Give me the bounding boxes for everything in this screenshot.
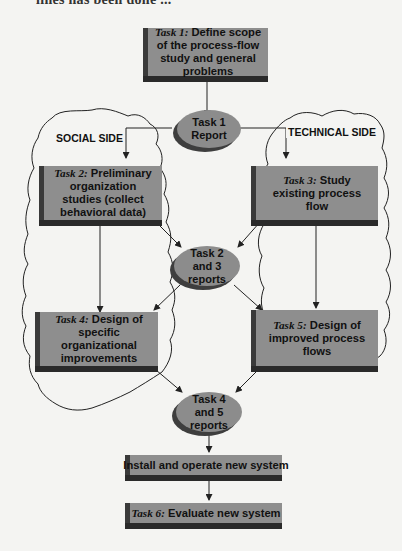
- task-4-and-5-reports-text: Task 4 and 5 reports: [181, 393, 237, 432]
- task-6-prefix: Task 6:: [131, 507, 164, 519]
- task-1-report-text: Task 1 Report: [189, 116, 229, 142]
- task-6-text: Evaluate new system: [165, 507, 281, 519]
- install-text: Install and operate new system: [123, 459, 288, 472]
- task-3-box: Task 3: Study existing process flow: [256, 166, 378, 220]
- task-1-box: Task 1: Define scope of the process-flow…: [148, 28, 268, 76]
- task-1-prefix: Task 1:: [155, 26, 188, 38]
- task-4-and-5-reports: Task 4 and 5 reports: [176, 392, 242, 432]
- task-2-box: Task 2: Preliminary organization studies…: [44, 166, 162, 220]
- task-6-box: Task 6: Evaluate new system: [130, 503, 282, 523]
- task-2-prefix: Task 2:: [54, 167, 87, 179]
- task-2-and-3-reports-text: Task 2 and 3 reports: [179, 247, 235, 286]
- task-3-prefix: Task 3:: [283, 174, 316, 186]
- task-5-box: Task 5: Design of improved process flows: [256, 310, 378, 366]
- technical-side-label: TECHNICAL SIDE: [286, 126, 378, 138]
- install-box: Install and operate new system: [130, 455, 282, 475]
- task-4-prefix: Task 4:: [55, 313, 88, 325]
- task-2-and-3-reports: Task 2 and 3 reports: [174, 246, 240, 286]
- task-5-prefix: Task 5:: [273, 319, 306, 331]
- task-4-box: Task 4: Design of specific organizationa…: [40, 312, 158, 366]
- task-1-report: Task 1 Report: [177, 110, 241, 148]
- social-side-label: SOCIAL SIDE: [54, 132, 125, 144]
